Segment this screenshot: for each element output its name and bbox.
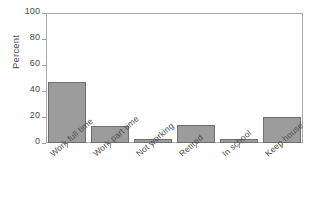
y-axis-tick: 80	[0, 39, 46, 40]
y-axis-tick-label: 40	[30, 84, 40, 94]
y-axis-tick-mark	[42, 143, 46, 144]
y-axis-tick: 40	[0, 91, 46, 92]
y-axis-tick: 60	[0, 65, 46, 66]
y-axis-tick: 20	[0, 117, 46, 118]
y-axis-tick: 100	[0, 13, 46, 14]
bar-chart: Percent 020406080100 Work full timeWork …	[0, 0, 325, 204]
y-axis-tick-label: 80	[30, 32, 40, 42]
y-axis-tick-label: 100	[25, 6, 40, 16]
y-axis-tick-label: 60	[30, 58, 40, 68]
y-axis-tick-label: 0	[35, 136, 40, 146]
y-axis-tick-label: 20	[30, 110, 40, 120]
y-axis-tick: 0	[0, 143, 46, 144]
